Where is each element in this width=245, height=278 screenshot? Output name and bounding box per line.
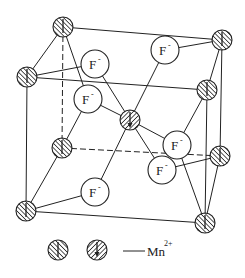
svg-text:F: F: [89, 185, 96, 200]
mn-ion-corner: [195, 213, 215, 233]
crystal-structure-diagram: F- F- F- F- F- F- Mn 2+: [0, 0, 245, 278]
svg-text:-: -: [98, 183, 101, 192]
svg-text:F: F: [82, 92, 89, 107]
legend-superscript: 2+: [164, 239, 173, 248]
svg-text:-: -: [98, 55, 101, 64]
f-ion: F-: [148, 156, 176, 184]
legend: Mn 2+: [48, 239, 173, 260]
mn-ion-corner: [16, 201, 36, 221]
mn-ion-center-spin-down: [120, 110, 140, 130]
mn-ion-corner: [210, 146, 230, 166]
svg-text:-: -: [165, 161, 168, 170]
legend-label: Mn: [147, 244, 166, 259]
mn-ion-corner: [212, 30, 232, 50]
svg-text:F: F: [156, 163, 163, 178]
svg-text:-: -: [168, 41, 171, 50]
f-ion: F-: [163, 131, 191, 159]
svg-text:F: F: [171, 138, 178, 153]
f-ion: F-: [151, 36, 179, 64]
f-ion: F-: [74, 85, 102, 113]
svg-text:-: -: [91, 90, 94, 99]
mn-ion-corner: [197, 80, 217, 100]
svg-text:-: -: [180, 136, 183, 145]
mn-ion-corner: [17, 67, 37, 87]
svg-text:F: F: [89, 57, 96, 72]
f-ion: F-: [81, 50, 109, 78]
f-ion: F-: [81, 178, 109, 206]
mn-ion-corner: [53, 17, 73, 37]
legend-mn-spin-up-icon: [48, 240, 68, 260]
mn-ion-corner: [52, 138, 72, 158]
legend-mn-spin-down-icon: [87, 240, 107, 260]
svg-text:F: F: [159, 43, 166, 58]
